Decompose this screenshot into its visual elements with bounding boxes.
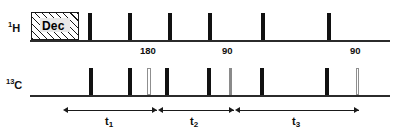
timing-line-t2 xyxy=(160,110,234,111)
carbon-pulse xyxy=(260,68,264,95)
timing-line-t3 xyxy=(237,110,359,111)
channel-label-proton: 1H xyxy=(8,21,20,34)
proton-pulse xyxy=(208,13,212,40)
nmr-pulse-sequence-diagram: 1H 13C Dec 180 90 90 t1 t2 t3 xyxy=(0,0,398,133)
timing-arrowhead-t2-right xyxy=(229,107,234,113)
proton-pulse xyxy=(327,13,331,40)
timing-arrowhead-t1-left xyxy=(63,107,68,113)
proton-pulse xyxy=(88,13,92,40)
proton-pulse xyxy=(128,13,132,40)
carbon-pulse xyxy=(325,68,329,95)
channel-label-proton-element: H xyxy=(12,22,20,34)
timing-arrowhead-t3-right xyxy=(354,107,359,113)
timing-arrowhead-t1-right xyxy=(152,107,157,113)
proton-pulse xyxy=(261,13,265,40)
carbon-pulse-open xyxy=(147,68,151,95)
timing-label-t1: t1 xyxy=(105,116,113,127)
timing-arrowhead-t3-left xyxy=(235,107,240,113)
proton-baseline xyxy=(30,40,390,42)
carbon-pulse-open xyxy=(356,68,359,95)
timing-line-t1 xyxy=(65,110,157,111)
flip-angle-label-90-first: 90 xyxy=(222,46,233,56)
timing-label-t2-sub: 2 xyxy=(194,120,198,129)
timing-label-t1-sub: 1 xyxy=(109,120,113,129)
carbon-pulse xyxy=(89,68,93,95)
flip-angle-label-180: 180 xyxy=(140,46,156,56)
timing-label-t3-sub: 3 xyxy=(296,120,300,129)
carbon-baseline xyxy=(30,95,390,97)
carbon-pulse xyxy=(165,68,169,95)
timing-label-t3: t3 xyxy=(292,116,300,127)
carbon-pulse xyxy=(207,68,211,95)
flip-angle-label-90-second: 90 xyxy=(350,46,361,56)
carbon-pulse-gray xyxy=(229,68,232,95)
channel-label-carbon: 13C xyxy=(6,78,22,91)
timing-label-t2: t2 xyxy=(190,116,198,127)
decoupling-label: Dec xyxy=(42,20,65,32)
carbon-pulse xyxy=(128,68,132,95)
channel-label-carbon-element: C xyxy=(14,79,22,91)
timing-arrowhead-t2-left xyxy=(158,107,163,113)
proton-pulse xyxy=(168,13,172,40)
